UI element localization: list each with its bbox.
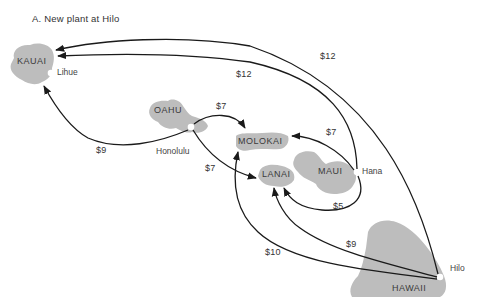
lihue-label: Lihue — [57, 67, 78, 77]
honolulu-label: Honolulu — [156, 146, 190, 156]
diagram-title: A. New plant at Hilo — [32, 13, 119, 24]
kauai-label: KAUAI — [17, 56, 47, 66]
cost-hana-lanai: $5 — [333, 201, 344, 211]
hilo-dot — [437, 274, 444, 281]
maui-label: MAUI — [318, 166, 343, 176]
lihue-dot — [48, 70, 55, 77]
hawaii-label: HAWAII — [392, 283, 426, 293]
map-canvas — [0, 0, 488, 297]
cost-hana-molokai: $7 — [326, 127, 337, 137]
cost-honolulu-kauai: $9 — [96, 145, 107, 155]
hana-dot — [354, 169, 361, 176]
cost-hana-kauai: $12 — [236, 69, 252, 79]
cost-hilo-kauai: $12 — [320, 51, 336, 61]
cost-honolulu-lanai: $7 — [205, 163, 216, 173]
hilo-label: Hilo — [450, 263, 465, 273]
cost-hilo-molokai: $10 — [265, 247, 281, 257]
cost-hilo-lanai: $9 — [346, 239, 357, 249]
oahu-label: OAHU — [154, 105, 182, 115]
cost-honolulu-molokai: $7 — [216, 101, 227, 111]
molokai-label: MOLOKAI — [238, 136, 283, 146]
hana-label: Hana — [362, 166, 382, 176]
honolulu-dot — [188, 124, 195, 131]
lanai-label: LANAI — [262, 169, 291, 179]
